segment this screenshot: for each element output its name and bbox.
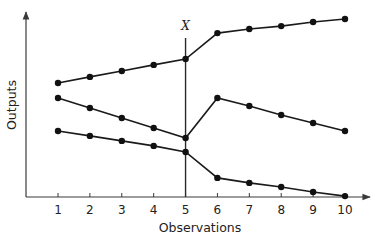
data-point (246, 26, 252, 32)
x-tick-label: 7 (246, 203, 254, 217)
data-point (87, 105, 93, 111)
data-point (182, 149, 188, 155)
data-point (214, 175, 220, 181)
x-tick-label: 9 (309, 203, 317, 217)
series-line (58, 98, 345, 138)
data-point (278, 23, 284, 29)
data-point (214, 95, 220, 101)
series-group (55, 16, 348, 200)
data-point (119, 115, 125, 121)
x-tick-label: 2 (86, 203, 94, 217)
data-point (119, 68, 125, 74)
data-point (151, 143, 157, 149)
data-point (310, 19, 316, 25)
data-point (342, 16, 348, 22)
data-point (119, 138, 125, 144)
x-tick-label: 3 (118, 203, 126, 217)
data-point (55, 128, 61, 134)
x-tick-label: 5 (182, 203, 190, 217)
data-point (55, 95, 61, 101)
data-point (278, 184, 284, 190)
data-point (278, 112, 284, 118)
data-point (87, 133, 93, 139)
vertical-marker-label: X (180, 19, 190, 33)
y-axis-label: Outputs (4, 80, 19, 130)
data-point (182, 56, 188, 62)
data-point (151, 62, 157, 68)
x-axis-label: Observations (159, 220, 242, 235)
data-point (55, 80, 61, 86)
data-point (214, 30, 220, 36)
series-line (58, 131, 345, 196)
data-point (246, 180, 252, 186)
x-tick-label: 1 (54, 203, 62, 217)
data-point (310, 120, 316, 126)
data-point (87, 74, 93, 80)
data-point (246, 103, 252, 109)
data-point (310, 189, 316, 195)
data-point (342, 128, 348, 134)
data-point (182, 135, 188, 141)
x-tick-label: 6 (214, 203, 222, 217)
x-tick-label: 4 (150, 203, 158, 217)
line-chart: 12345678910 X Observations Outputs (0, 0, 375, 241)
x-tick-label: 10 (337, 203, 352, 217)
data-point (342, 193, 348, 199)
data-point (151, 125, 157, 131)
x-tick-label: 8 (277, 203, 285, 217)
series-line (58, 19, 345, 83)
